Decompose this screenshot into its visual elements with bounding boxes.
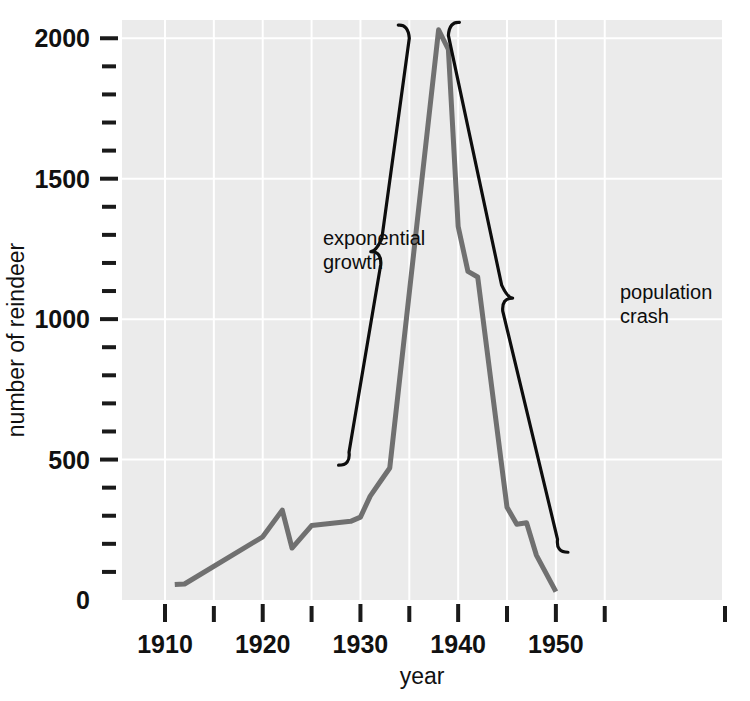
y-tick-label: 1500 [34,165,90,193]
annotation-exponential-growth-line1: exponential [323,227,425,249]
x-axis-ticks [165,604,725,622]
x-axis-title: year [400,663,445,689]
annotation-population-crash-line1: population [620,281,712,303]
y-tick-label: 2000 [34,24,90,52]
annotation-population-crash-line2: crash [620,305,669,327]
x-tick-label: 1930 [333,630,389,658]
y-axis-tick-labels: 0500100015002000 [34,24,90,614]
x-tick-label: 1920 [235,630,291,658]
chart-svg: 0500100015002000 19101920193019401950 ye… [0,0,750,701]
y-tick-label: 0 [76,586,90,614]
x-tick-label: 1950 [528,630,584,658]
y-axis-ticks [100,38,118,572]
y-tick-label: 1000 [34,305,90,333]
y-axis-title: number of reindeer [3,242,29,437]
x-axis-tick-labels: 19101920193019401950 [137,630,584,658]
annotation-exponential-growth-line2: growth [323,251,383,273]
y-tick-label: 500 [48,446,90,474]
x-tick-label: 1940 [430,630,486,658]
x-tick-label: 1910 [137,630,193,658]
reindeer-population-chart: 0500100015002000 19101920193019401950 ye… [0,0,750,701]
